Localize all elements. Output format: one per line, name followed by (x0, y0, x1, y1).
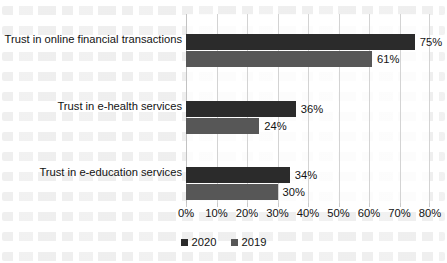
bar-2020-0[interactable] (186, 34, 415, 50)
category-label-0: Trust in online financial transactions (0, 33, 182, 45)
legend-label-2020: 2020 (192, 236, 217, 248)
chart-legend: 20202019 (0, 236, 447, 248)
bar-2020-1[interactable] (186, 101, 296, 117)
bar-2019-1[interactable] (186, 118, 259, 134)
legend-label-2019: 2019 (242, 236, 267, 248)
x-tick-label-10%: 10% (205, 206, 227, 220)
value-label-2020-2: 34% (295, 169, 317, 181)
x-tick-label-60%: 60% (358, 206, 380, 220)
value-label-2020-1: 36% (301, 103, 323, 115)
legend-item-2019[interactable]: 2019 (231, 236, 267, 248)
x-tick-label-0%: 0% (178, 206, 194, 220)
bar-chart: Trust in online financial transactions T… (0, 0, 447, 263)
x-tick-label-30%: 30% (266, 206, 288, 220)
value-label-2019-1: 24% (264, 120, 286, 132)
legend-item-2020[interactable]: 2020 (181, 236, 217, 248)
bar-2019-0[interactable] (186, 51, 372, 67)
x-axis-tick-labels: 0%10%20%30%40%50%60%70%80% (0, 206, 447, 222)
legend-swatch-icon-2020 (181, 239, 188, 246)
value-label-2019-0: 61% (377, 53, 399, 65)
x-tick-label-80%: 80% (419, 206, 441, 220)
bar-2019-2[interactable] (186, 184, 278, 200)
x-tick-label-20%: 20% (236, 206, 258, 220)
category-label-1: Trust in e-health services (0, 100, 182, 112)
bar-2020-2[interactable] (186, 167, 290, 183)
value-label-2020-0: 75% (420, 36, 442, 48)
x-tick-label-70%: 70% (388, 206, 410, 220)
value-label-2019-2: 30% (283, 186, 305, 198)
category-label-2: Trust in e-education services (0, 166, 182, 178)
legend-swatch-icon-2019 (231, 239, 238, 246)
x-tick-label-40%: 40% (297, 206, 319, 220)
x-tick-label-50%: 50% (327, 206, 349, 220)
